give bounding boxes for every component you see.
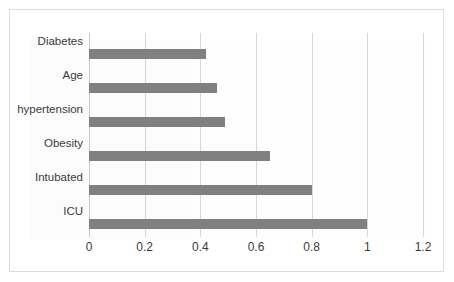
x-tick-label-0: 0 — [86, 240, 93, 254]
category-label-obesity: Obesity — [0, 137, 83, 149]
category-label-icu: ICU — [0, 205, 83, 217]
x-tick-label-1.2: 1.2 — [415, 240, 432, 254]
bar-diabetes — [89, 49, 206, 59]
category-label-intubated: Intubated — [0, 171, 83, 183]
x-tick-label-0.4: 0.4 — [192, 240, 209, 254]
category-label-hypertension: hypertension — [0, 103, 83, 115]
bar-age — [89, 83, 217, 93]
bars-layer — [89, 33, 423, 237]
bar-chart: DiabetesAgehypertensionObesityIntubatedI… — [0, 0, 454, 282]
x-tick-label-1: 1 — [364, 240, 371, 254]
bar-obesity — [89, 151, 270, 161]
x-tick-label-0.2: 0.2 — [136, 240, 153, 254]
gridline-1.2 — [423, 33, 424, 237]
category-label-age: Age — [0, 69, 83, 81]
category-axis-labels: DiabetesAgehypertensionObesityIntubatedI… — [0, 33, 83, 237]
bar-intubated — [89, 185, 312, 195]
x-axis-tick-labels: 00.20.40.60.811.2 — [89, 240, 423, 258]
category-label-diabetes: Diabetes — [0, 35, 83, 47]
bar-icu — [89, 219, 367, 229]
bar-hypertension — [89, 117, 225, 127]
x-tick-label-0.8: 0.8 — [303, 240, 320, 254]
x-tick-label-0.6: 0.6 — [248, 240, 265, 254]
